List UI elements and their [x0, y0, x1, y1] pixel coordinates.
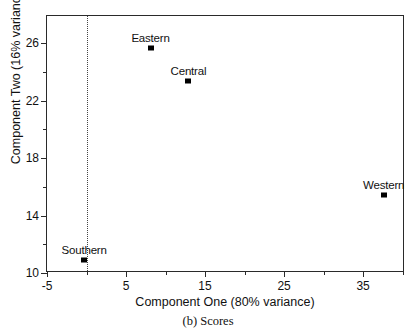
data-point-marker — [185, 78, 191, 83]
x-tick-label: 25 — [277, 279, 290, 293]
x-tick-major — [284, 271, 285, 277]
x-tick-minor — [245, 271, 246, 275]
y-tick-label: 18 — [26, 151, 39, 165]
x-tick-major — [126, 271, 127, 277]
y-axis-title: Component Two (16% variance) — [9, 0, 23, 195]
y-tick-label: 26 — [26, 36, 39, 50]
data-point-label: Central — [171, 65, 207, 77]
data-point-label: Eastern — [131, 32, 169, 44]
y-tick-label: 22 — [26, 94, 39, 108]
x-tick-minor — [403, 271, 404, 275]
y-tick-major — [41, 216, 47, 217]
x-tick-label: -5 — [42, 279, 53, 293]
y-tick-minor — [43, 187, 47, 188]
data-point-label: Southern — [62, 244, 107, 256]
x-tick-label: 15 — [198, 279, 211, 293]
x-tick-major — [205, 271, 206, 277]
figure-container: 1014182226 -55152535 EasternCentralWeste… — [0, 0, 416, 332]
plot-area: 1014182226 -55152535 EasternCentralWeste… — [46, 15, 404, 272]
data-point-marker — [148, 45, 154, 50]
y-tick-minor — [43, 129, 47, 130]
data-point-label: Western — [363, 179, 404, 191]
x-axis-title: Component One (80% variance) — [46, 295, 404, 309]
y-tick-major — [41, 101, 47, 102]
x-tick-minor — [87, 271, 88, 275]
data-point-marker — [381, 193, 387, 198]
x-tick-minor — [166, 271, 167, 275]
x-tick-major — [47, 271, 48, 277]
x-tick-major — [363, 271, 364, 277]
y-tick-minor — [43, 72, 47, 73]
x-tick-label: 5 — [123, 279, 130, 293]
x-tick-minor — [324, 271, 325, 275]
reference-line-icon — [87, 16, 88, 271]
y-tick-minor — [43, 244, 47, 245]
y-tick-label: 10 — [26, 266, 39, 280]
data-point-marker — [81, 258, 87, 263]
figure-caption: (b) Scores — [0, 314, 416, 329]
y-tick-major — [41, 158, 47, 159]
y-tick-major — [41, 43, 47, 44]
x-tick-label: 35 — [356, 279, 369, 293]
y-tick-label: 14 — [26, 209, 39, 223]
